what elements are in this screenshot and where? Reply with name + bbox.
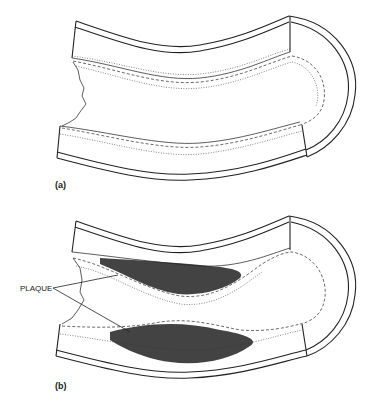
panel-b-label: (b)	[55, 381, 67, 391]
panel-a-label: (a)	[55, 180, 66, 190]
artery-diagram: (a) PLAQUE (b)	[0, 0, 376, 413]
panel-b-artery	[56, 216, 356, 378]
plaque-upper	[100, 258, 241, 294]
plaque-annotation: PLAQUE	[20, 275, 130, 332]
plaque-leader-upper	[53, 275, 118, 288]
plaque-leader-lower	[53, 288, 130, 332]
plaque-lower	[110, 324, 253, 363]
plaque-label: PLAQUE	[20, 284, 52, 293]
panel-a-artery	[57, 16, 356, 180]
